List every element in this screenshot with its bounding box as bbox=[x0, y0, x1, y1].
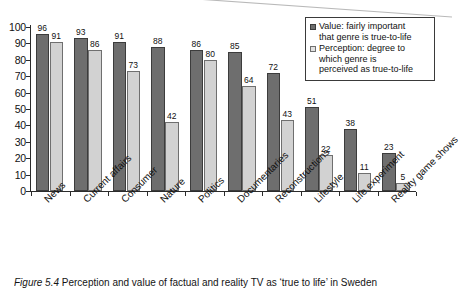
x-axis-category-label: News bbox=[42, 179, 67, 204]
legend-entry-value: Value: fairly important that genre is tr… bbox=[310, 21, 430, 42]
legend-entry-perception-label: Perception: degree to which genre is per… bbox=[319, 43, 413, 75]
x-axis-category-label: Lifestyle bbox=[312, 171, 346, 205]
legend-entry-value-label: Value: fairly important that genre is tr… bbox=[319, 21, 412, 42]
x-axis-category-label: Reality game shows bbox=[389, 134, 460, 205]
legend-entry-perception: Perception: degree to which genre is per… bbox=[310, 43, 430, 75]
light-gray-square-icon bbox=[310, 46, 316, 52]
figure-caption: Figure 5.4 Perception and value of factu… bbox=[14, 277, 432, 289]
chart-legend: Value: fairly important that genre is tr… bbox=[305, 17, 435, 81]
dark-gray-square-icon bbox=[310, 24, 316, 30]
figure-caption-text: Perception and value of factual and real… bbox=[62, 277, 377, 288]
figure-caption-number: Figure 5.4 bbox=[14, 277, 59, 288]
x-axis-category-label: Consumer bbox=[119, 164, 159, 204]
x-axis-category-label: Nature bbox=[158, 176, 187, 205]
x-axis-category-label: Politics bbox=[196, 175, 226, 205]
